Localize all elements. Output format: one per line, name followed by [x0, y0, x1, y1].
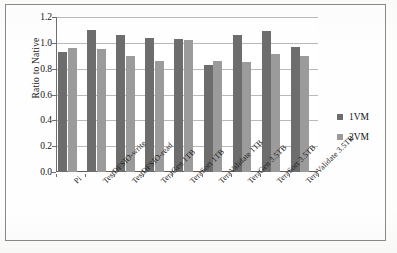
y-tick-label: 0.4 — [26, 115, 52, 125]
x-axis-tick-labels: PiTestDFSIO-writeTestDFSIO-readTeraGen 1… — [56, 174, 318, 244]
y-tick-label: 0.0 — [26, 167, 52, 177]
x-tick-mark — [202, 174, 203, 177]
y-tick-label: 0.2 — [26, 141, 52, 151]
legend-swatch-icon — [337, 114, 343, 120]
chart-legend: 1VM2VM — [337, 112, 369, 152]
legend-item: 2VM — [337, 132, 369, 142]
y-axis-tick-labels: 1.21.00.80.60.40.20.0 — [22, 17, 52, 172]
legend-item: 1VM — [337, 112, 369, 122]
bar-2vm — [68, 48, 77, 172]
y-tick-mark — [52, 172, 56, 173]
bar-1vm — [116, 35, 125, 172]
bar-1vm — [291, 47, 300, 172]
x-tick-mark — [56, 174, 57, 177]
bar-1vm — [145, 38, 154, 172]
bar-1vm — [233, 35, 242, 172]
x-tick-mark — [172, 174, 173, 177]
legend-label: 2VM — [349, 132, 369, 142]
x-tick-mark — [231, 174, 232, 177]
x-tick-mark — [114, 174, 115, 177]
x-tick-mark — [143, 174, 144, 177]
x-tick-label: Pi — [72, 174, 83, 185]
bar-group — [85, 17, 114, 172]
figure-root: Ratio to Native 1.21.00.80.60.40.20.0 Pi… — [0, 0, 397, 253]
bar-group — [172, 17, 201, 172]
y-tick-label: 1.2 — [26, 12, 52, 22]
bar-group — [202, 17, 231, 172]
y-tick-label: 1.0 — [26, 38, 52, 48]
legend-swatch-icon — [337, 134, 343, 140]
legend-label: 1VM — [349, 112, 369, 122]
y-tick-label: 0.6 — [26, 90, 52, 100]
bar-2vm — [97, 49, 106, 172]
x-tick-mark — [289, 174, 290, 177]
x-tick-mark — [260, 174, 261, 177]
x-tick-mark — [318, 174, 319, 177]
bar-1vm — [87, 30, 96, 172]
y-tick-label: 0.8 — [26, 64, 52, 74]
x-tick-mark — [85, 174, 86, 177]
bar-1vm — [174, 39, 183, 172]
bar-1vm — [58, 52, 67, 172]
bar-1vm — [262, 31, 271, 172]
bar-group — [56, 17, 85, 172]
